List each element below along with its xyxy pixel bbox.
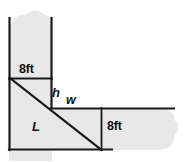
label-corridor-width-top: 8ft — [19, 63, 34, 76]
figure-canvas — [0, 0, 184, 161]
label-corridor-width-right: 8ft — [107, 120, 122, 133]
label-width-w: w — [66, 94, 76, 107]
label-length-L: L — [32, 120, 40, 133]
label-height-h: h — [52, 86, 60, 99]
corridor-fill — [9, 11, 179, 162]
geometry-figure: 8ft h w L 8ft — [0, 0, 184, 161]
